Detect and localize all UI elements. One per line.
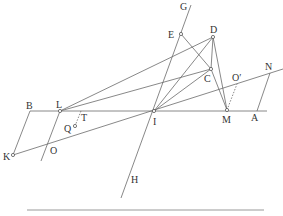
line-AN <box>257 73 270 111</box>
label-E: E <box>168 29 174 40</box>
point-M <box>225 108 228 111</box>
line-KN <box>13 69 283 155</box>
dotted-MO-prime <box>227 84 237 110</box>
point-I <box>152 109 155 112</box>
line-CM <box>211 69 227 110</box>
line-DC <box>211 37 213 69</box>
label-N: N <box>265 61 272 72</box>
line-BK <box>13 111 30 155</box>
line-EC <box>181 34 211 69</box>
label-A: A <box>251 112 259 123</box>
point-E <box>179 32 182 35</box>
geometry-diagram: G E D C O′ N I M A B L T Q O K H <box>0 0 283 216</box>
label-K: K <box>3 151 11 162</box>
label-O: O <box>50 145 57 156</box>
point-D <box>211 35 214 38</box>
point-Q <box>73 124 76 127</box>
line-LD <box>60 37 213 111</box>
label-H: H <box>131 174 138 185</box>
label-O-prime: O′ <box>232 72 241 83</box>
label-D: D <box>210 24 217 35</box>
label-M: M <box>222 114 231 125</box>
point-C <box>209 67 212 70</box>
label-I: I <box>153 116 156 127</box>
label-L: L <box>56 99 62 110</box>
line-DM <box>213 37 227 110</box>
label-C: C <box>204 73 211 84</box>
point-K <box>11 153 14 156</box>
label-T: T <box>81 112 87 123</box>
label-Q: Q <box>64 123 72 134</box>
label-B: B <box>26 100 33 111</box>
label-G: G <box>180 1 187 12</box>
line-LC <box>60 69 211 111</box>
